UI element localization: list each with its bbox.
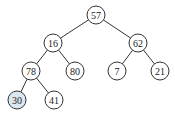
node-label: 41: [49, 95, 59, 106]
tree-node-62: 62: [129, 34, 147, 52]
tree-node-30: 30: [8, 91, 26, 109]
tree-node-78: 78: [22, 62, 40, 80]
tree-node-57: 57: [87, 6, 105, 24]
node-label: 78: [26, 66, 36, 77]
tree-edge-n57-n62: [103, 20, 130, 38]
tree-node-41: 41: [45, 91, 63, 109]
node-label: 21: [155, 66, 165, 77]
tree-node-21: 21: [151, 62, 169, 80]
node-label: 80: [70, 66, 80, 77]
tree-node-16: 16: [44, 34, 62, 52]
node-label: 7: [115, 66, 120, 77]
tree-edge-n16-n78: [37, 50, 48, 64]
tree-edge-n16-n80: [59, 50, 70, 64]
tree-edge-n78-n30: [21, 79, 27, 92]
binary-tree-diagram: 57166278807213041: [0, 0, 175, 118]
node-label: 62: [133, 38, 143, 49]
node-label: 57: [91, 10, 101, 21]
tree-edge-n62-n7: [122, 50, 132, 64]
tree-edges: [21, 20, 155, 93]
tree-edge-n78-n41: [37, 78, 49, 93]
node-label: 16: [48, 38, 58, 49]
node-label: 30: [12, 95, 22, 106]
tree-node-7: 7: [108, 62, 126, 80]
tree-edge-n57-n16: [61, 20, 89, 38]
tree-node-80: 80: [66, 62, 84, 80]
tree-edge-n62-n21: [144, 50, 155, 64]
tree-nodes: 57166278807213041: [8, 6, 169, 109]
